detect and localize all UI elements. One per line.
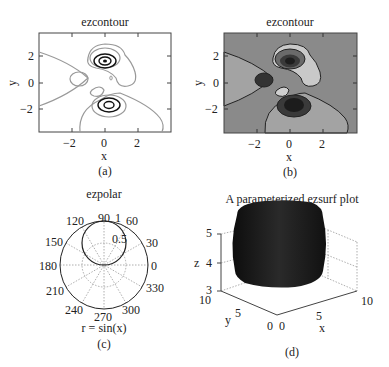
caption-c: (c) [97,337,110,352]
ztick-4: 4 [206,257,212,269]
angle-label-150: 150 [45,236,63,248]
surface-plot [195,185,389,367]
radial-label-0-5: 0.5 [112,233,127,245]
ytick-b-2: −2 [205,103,218,115]
ylabel-d: y [225,314,231,326]
zlabel: z [194,257,199,269]
ylabel-a: y [6,80,18,86]
panel-d-surface: A parameterized ezsurf plot [195,185,389,367]
ylabel-b: y [192,80,204,86]
angle-label-330: 330 [146,282,164,294]
angle-label-90: 90 [98,212,110,224]
xtick-a-0: −2 [63,137,76,149]
xtick-a-2: 2 [134,137,140,149]
ytick-d-10: 10 [199,294,211,306]
xtick-a-1: 0 [101,137,107,149]
angle-label-120: 120 [66,215,84,227]
contour-plot-b [195,0,389,185]
angle-label-60: 60 [126,215,138,227]
angle-label-0: 0 [151,260,157,272]
polar-function-label: r = sin(x) [82,321,127,336]
xlabel-b: x [286,151,292,163]
ztick-5: 5 [206,227,212,239]
angle-label-300: 300 [122,304,140,316]
angle-label-240: 240 [65,304,83,316]
ytick-d-5: 5 [235,307,241,319]
radial-label-1: 1 [115,212,121,224]
caption-d: (d) [285,345,299,360]
angle-label-180: 180 [39,260,57,272]
xtick-d-0: 0 [279,320,285,332]
ytick-a-0: 2 [28,50,34,62]
ytick-a-1: 0 [28,77,34,89]
ytick-a-2: −2 [20,103,33,115]
ytick-b-0: 2 [213,50,219,62]
panel-c-polar: ezpolar 90 1 60 0.5 30 0 330 300 270 240… [0,185,195,367]
contour-plot-a [0,0,195,185]
angle-label-210: 210 [46,285,64,297]
xlabel-d: x [319,322,325,334]
ytick-d-0: 0 [267,320,273,332]
caption-a: (a) [98,164,111,179]
caption-b: (b) [283,165,297,180]
panel-b-filled-contour: ezcontour −2 0 2 2 0 −2 x y (b) [195,0,389,185]
xtick-b-1: 0 [286,138,292,150]
panel-a-line-contour: ezcontour −2 0 2 2 0 − [0,0,195,185]
xtick-d-10: 10 [361,295,373,307]
xlabel-a: x [101,150,107,162]
angle-label-30: 30 [146,237,158,249]
xtick-b-0: −2 [248,138,261,150]
xtick-b-2: 2 [319,138,325,150]
ytick-b-1: 0 [213,77,219,89]
